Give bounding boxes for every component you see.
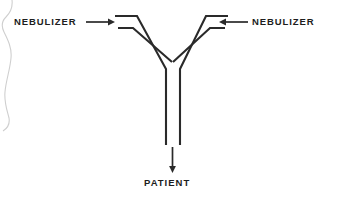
arrow-down-icon (169, 147, 176, 173)
label-patient: PATIENT (144, 178, 190, 188)
page-edge-artifact (2, 0, 12, 131)
arrow-left-icon (219, 19, 248, 26)
right-arm-inner-wall (173, 28, 225, 62)
right-arm-outer-wall (180, 16, 228, 145)
label-nebulizer-left: NEBULIZER (14, 17, 76, 27)
left-arm-inner-wall (118, 28, 172, 62)
arrow-right-icon (86, 19, 115, 26)
label-nebulizer-right: NEBULIZER (252, 17, 314, 27)
y-piece-diagram (0, 0, 341, 198)
tubing-outline (115, 16, 228, 145)
figure-canvas: NEBULIZER NEBULIZER PATIENT (0, 0, 341, 198)
